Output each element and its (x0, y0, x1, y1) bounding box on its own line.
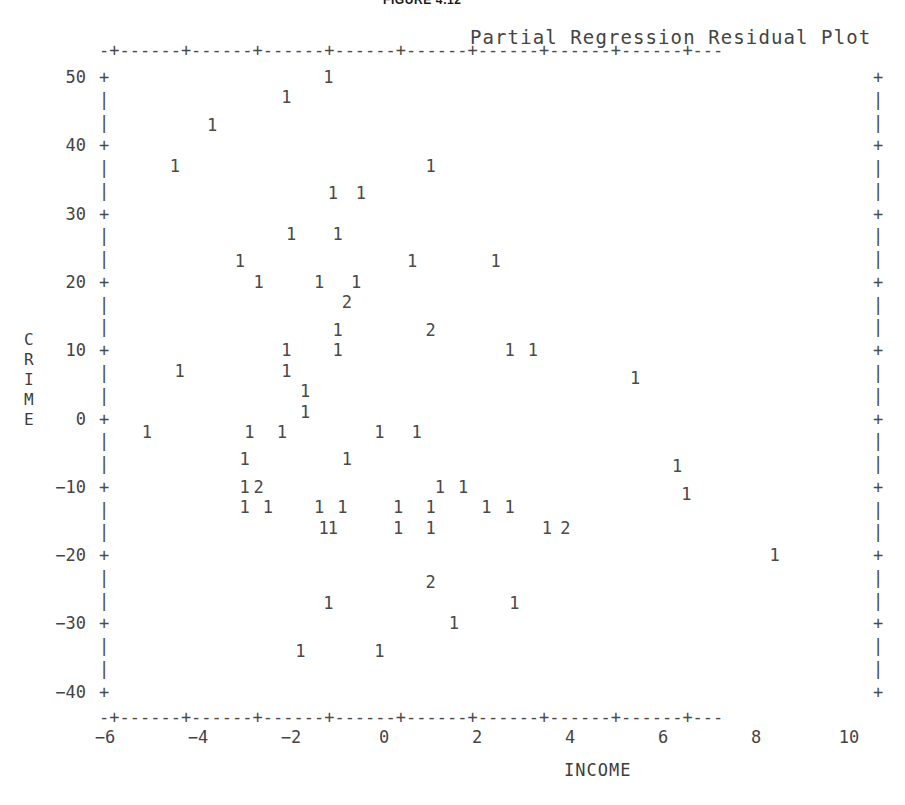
y-tick-mark-right: + (873, 477, 883, 497)
y-tick-mark: + (99, 477, 109, 497)
data-point-glyph: 1 (351, 274, 361, 291)
data-point-glyph: 1 (426, 499, 436, 516)
data-point-glyph: 1 (374, 424, 384, 441)
y-axis-label-char: C (24, 330, 34, 350)
data-point-glyph: 1 (333, 226, 343, 243)
y-minor-mark-right: | (873, 431, 883, 451)
y-minor-mark: | (99, 295, 109, 315)
x-tick-label: 8 (736, 727, 776, 747)
data-point-glyph: 1 (286, 226, 296, 243)
data-point-glyph: 1 (314, 499, 324, 516)
data-point-glyph: 1 (681, 486, 691, 503)
y-minor-mark-right: | (873, 454, 883, 474)
y-tick-mark: + (99, 67, 109, 87)
data-point-glyph: 1 (770, 547, 780, 564)
data-point-glyph: 1 (509, 595, 519, 612)
y-tick-mark-right: + (873, 613, 883, 633)
y-axis-label-char: E (24, 410, 34, 430)
data-point-glyph: 1 (337, 499, 347, 516)
y-minor-mark-right: | (873, 158, 883, 178)
y-minor-mark: | (99, 181, 109, 201)
x-tick-label: 10 (829, 727, 869, 747)
y-minor-mark: | (99, 454, 109, 474)
y-minor-mark-right: | (873, 363, 883, 383)
data-point-glyph: 2 (426, 322, 436, 339)
y-minor-mark-right: | (873, 226, 883, 246)
y-minor-mark-right: | (873, 636, 883, 656)
y-minor-mark-right: | (873, 568, 883, 588)
y-axis-label: CRIME (24, 330, 34, 430)
y-tick-mark: + (99, 272, 109, 292)
data-point-glyph: 1 (314, 274, 324, 291)
data-point-glyph: 1 (458, 479, 468, 496)
y-minor-mark-right: | (873, 500, 883, 520)
bottom-axis-rule: -+------+------+------+------+------+---… (99, 707, 723, 727)
data-point-glyph: 1 (342, 451, 352, 468)
y-tick-label: 0 (44, 409, 86, 429)
y-minor-mark-right: | (873, 659, 883, 679)
y-minor-mark: | (99, 659, 109, 679)
y-tick-mark-right: + (873, 204, 883, 224)
y-tick-mark-right: + (873, 135, 883, 155)
y-tick-mark: + (99, 340, 109, 360)
data-point-glyph: 1 (449, 615, 459, 632)
y-minor-mark-right: | (873, 522, 883, 542)
x-axis-label: INCOME (564, 760, 631, 780)
data-point-glyph: 1 (323, 595, 333, 612)
y-tick-label: −20 (44, 545, 86, 565)
y-tick-label: 30 (44, 204, 86, 224)
y-axis-label-char: R (24, 350, 34, 370)
data-point-glyph: 2 (342, 294, 352, 311)
data-point-glyph: 1 (426, 158, 436, 175)
y-tick-mark-right: + (873, 67, 883, 87)
data-point-glyph: 2 (253, 479, 263, 496)
data-point-glyph: 2 (560, 520, 570, 537)
data-point-glyph: 2 (426, 574, 436, 591)
y-tick-label: 20 (44, 272, 86, 292)
y-tick-mark-right: + (873, 272, 883, 292)
x-tick-label: 0 (364, 727, 404, 747)
x-tick-label: 4 (550, 727, 590, 747)
data-point-glyph: 1 (374, 643, 384, 660)
data-point-glyph: 1 (207, 117, 217, 134)
y-minor-mark-right: | (873, 591, 883, 611)
y-tick-mark-right: + (873, 409, 883, 429)
data-point-glyph: 1 (630, 370, 640, 387)
y-tick-mark: + (99, 409, 109, 429)
data-point-glyph: 1 (240, 479, 250, 496)
data-point-glyph: 1 (295, 643, 305, 660)
y-tick-mark-right: + (873, 340, 883, 360)
y-minor-mark: | (99, 636, 109, 656)
data-point-glyph: 1 (300, 383, 310, 400)
y-tick-label: −10 (44, 477, 86, 497)
y-minor-mark: | (99, 317, 109, 337)
data-point-glyph: 1 (412, 424, 422, 441)
y-minor-mark: | (99, 249, 109, 269)
y-tick-label: 50 (44, 67, 86, 87)
data-point-glyph: 1 (240, 499, 250, 516)
data-point-glyph: 1 (263, 499, 273, 516)
data-point-glyph: 1 (323, 69, 333, 86)
data-point-glyph: 1 (328, 185, 338, 202)
y-minor-mark: | (99, 568, 109, 588)
plot-canvas: FIGURE 4.12 Partial Regression Residual … (0, 0, 905, 805)
y-minor-mark: | (99, 226, 109, 246)
data-point-glyph: 1 (300, 404, 310, 421)
data-point-glyph: 1 (505, 342, 515, 359)
x-tick-label: 2 (457, 727, 497, 747)
y-tick-label: −40 (44, 682, 86, 702)
y-tick-mark: + (99, 204, 109, 224)
data-point-glyph: 1 (356, 185, 366, 202)
y-minor-mark-right: | (873, 386, 883, 406)
data-point-glyph: 1 (481, 499, 491, 516)
y-minor-mark-right: | (873, 181, 883, 201)
data-point-glyph: 1 (505, 499, 515, 516)
top-axis-rule: -+------+------+------+------+------+---… (99, 40, 723, 60)
x-tick-label: −6 (85, 727, 125, 747)
data-point-glyph: 1 (333, 322, 343, 339)
data-point-glyph: 1 (393, 520, 403, 537)
y-minor-mark: | (99, 431, 109, 451)
data-point-glyph: 1 (244, 424, 254, 441)
y-axis-label-char: M (24, 390, 34, 410)
y-minor-mark-right: | (873, 249, 883, 269)
